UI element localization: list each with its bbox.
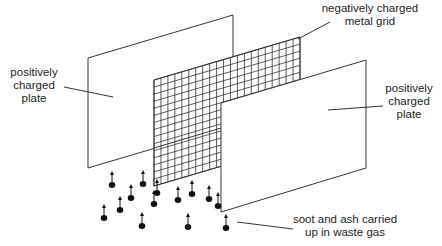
soot-particle	[189, 180, 196, 197]
left-plate-label: positively charged plate	[6, 66, 62, 105]
soot-particle	[175, 186, 182, 203]
soot-particle	[185, 213, 192, 230]
particles-label: soot and ash carried up in waste gas	[285, 213, 405, 239]
soot-particle	[139, 212, 146, 229]
soot-particle	[101, 204, 108, 221]
soot-particle	[117, 196, 124, 213]
right-plate-label: positively charged plate	[381, 82, 437, 121]
soot-particle	[223, 214, 230, 231]
soot-particle	[206, 185, 213, 202]
soot-particle	[140, 170, 147, 187]
grid-label: negatively charged metal grid	[305, 2, 435, 28]
soot-particle	[109, 171, 116, 188]
soot-particle	[215, 192, 222, 209]
soot-particle	[128, 184, 135, 201]
precipitator-diagram	[0, 0, 442, 246]
